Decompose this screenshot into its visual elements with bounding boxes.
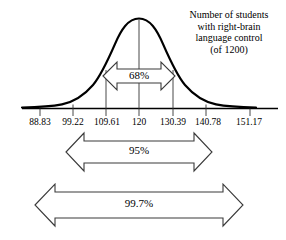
- caption-line-3: language control: [172, 32, 286, 44]
- band-label-68: 68%: [129, 70, 149, 81]
- caption-line-2: with right-brain: [172, 21, 286, 33]
- band-label-997: 99.7%: [125, 198, 153, 209]
- band-label-95: 95%: [129, 145, 149, 156]
- caption-line-4: (of 1200): [172, 44, 286, 56]
- x-tick-label-130: 130.39: [160, 117, 186, 128]
- x-tick-label-140: 140.78: [195, 117, 221, 128]
- x-tick-label-120: 120: [132, 117, 146, 128]
- x-tick-label-99: 99.22: [62, 117, 83, 128]
- chart-caption: Number of students with right-brain lang…: [172, 9, 286, 55]
- caption-line-1: Number of students: [172, 9, 286, 21]
- normal-distribution-figure: Number of students with right-brain lang…: [0, 0, 286, 240]
- x-tick-label-88: 88.83: [29, 117, 50, 128]
- x-tick-label-151: 151.17: [236, 117, 262, 128]
- x-tick-label-109: 109.61: [94, 117, 120, 128]
